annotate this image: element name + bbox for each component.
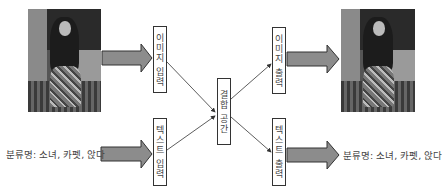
arrow-output-to-text: [287, 141, 339, 169]
joint-space-box: 결합 공간: [217, 78, 231, 145]
image-output-box: 이미지 출력: [272, 27, 286, 94]
image-input-label: 이미지 입력: [154, 33, 167, 87]
input-caption: 분류명: 소녀, 카펫, 앉다: [6, 147, 105, 161]
image-input-box: 이미지 입력: [153, 26, 167, 93]
text-input-label: 텍스트 입력: [154, 125, 167, 179]
arrow-text-to-input: [101, 140, 152, 168]
text-output-box: 텍스트 출력: [272, 118, 286, 186]
text-input-box: 텍스트 입력: [153, 118, 167, 186]
output-caption: 분류명: 소녀, 카펫, 앉다: [343, 148, 442, 162]
joint-space-label: 결합 공간: [218, 90, 231, 134]
image-output-label: 이미지 출력: [273, 34, 286, 88]
text-output-label: 텍스트 출력: [273, 125, 286, 179]
arrow-image-to-input: [102, 44, 152, 72]
arrow-output-to-image: [287, 45, 339, 73]
